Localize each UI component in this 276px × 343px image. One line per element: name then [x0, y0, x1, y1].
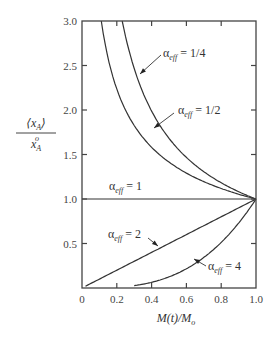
y-tick-label: 3.0 [63, 15, 77, 27]
x-tick-label: 0.8 [214, 293, 228, 305]
curve-series-3 [86, 199, 257, 286]
x-tick-label: 1.0 [249, 293, 263, 305]
annotation-label: αeff = 2 [108, 227, 141, 243]
y-axis-title: ⟨xA⟩ xAo [16, 116, 56, 153]
annotation-label: αeff = 1/2 [178, 103, 220, 119]
annotation-label: αeff = 1/4 [163, 46, 205, 62]
y-tick-label: 1.5 [63, 149, 77, 161]
y-tick-label: 2.5 [63, 60, 77, 72]
chart: 00.20.40.60.81.00.51.01.52.02.53.0 αeff … [0, 0, 276, 343]
x-tick-label: 0.6 [180, 293, 194, 305]
y-tick-label: 2.0 [63, 104, 77, 116]
x-axis-title: M(t)/Mo [156, 311, 196, 327]
y-tick-label: 0.5 [63, 238, 77, 250]
annotation-label: αeff = 4 [208, 259, 241, 275]
x-tick-label: 0.2 [110, 293, 124, 305]
svg-text:⟨xA⟩: ⟨xA⟩ [26, 116, 46, 132]
svg-text:xAo: xAo [30, 134, 41, 153]
annotation-label: αeff = 1 [109, 179, 142, 195]
x-tick-label: 0 [79, 293, 85, 305]
x-tick-label: 0.4 [145, 293, 159, 305]
y-tick-label: 1.0 [63, 193, 77, 205]
